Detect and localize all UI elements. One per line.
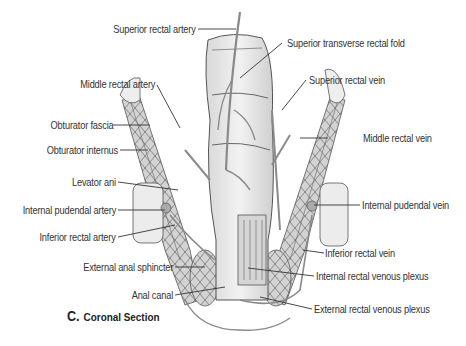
label-inferior-rectal-vein: Inferior rectal vein bbox=[325, 247, 395, 259]
coronal-section-figure: Superior rectal artery Middle rectal art… bbox=[0, 0, 466, 346]
label-middle-rectal-vein: Middle rectal vein bbox=[363, 132, 432, 144]
label-external-rectal-venous-plexus: External rectal venous plexus bbox=[314, 303, 430, 315]
label-internal-pudendal-vein: Internal pudendal vein bbox=[362, 199, 449, 211]
label-external-anal-sphincter: External anal sphincter bbox=[83, 261, 173, 273]
label-internal-pudendal-artery: Internal pudendal artery bbox=[23, 204, 116, 216]
label-obturator-fascia: Obturator fascia bbox=[50, 119, 113, 131]
label-anal-canal: Anal canal bbox=[132, 289, 173, 301]
label-obturator-internus: Obturator internus bbox=[47, 144, 118, 156]
label-levator-ani: Levator ani bbox=[72, 176, 116, 188]
label-middle-rectal-artery: Middle rectal artery bbox=[80, 78, 155, 90]
label-inferior-rectal-artery: Inferior rectal artery bbox=[40, 231, 116, 243]
figure-caption: C. Coronal Section bbox=[67, 307, 160, 325]
caption-letter: C. bbox=[67, 308, 80, 324]
label-superior-transverse-rectal-fold: Superior transverse rectal fold bbox=[287, 37, 405, 49]
label-internal-rectal-venous-plexus: Internal rectal venous plexus bbox=[316, 270, 429, 282]
rectum-anatomy-illustration bbox=[0, 0, 466, 346]
caption-text: Coronal Section bbox=[84, 311, 160, 323]
label-superior-rectal-vein: Superior rectal vein bbox=[309, 74, 385, 86]
label-superior-rectal-artery: Superior rectal artery bbox=[114, 23, 196, 35]
